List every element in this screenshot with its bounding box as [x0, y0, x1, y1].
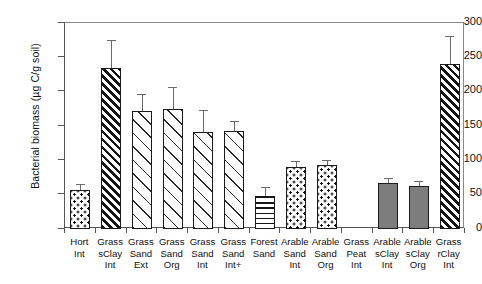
- bar-hort-int: [70, 190, 90, 229]
- x-axis-tick: [64, 228, 65, 233]
- x-axis-label-line: Hort: [62, 236, 97, 248]
- x-axis-label-line: Int: [339, 259, 374, 271]
- x-axis-category-grass-sand-int-: GrassSandInt+: [216, 236, 251, 271]
- error-bar-cap: [445, 36, 454, 37]
- x-axis-label-line: Sand: [308, 248, 343, 260]
- x-axis-label-line: Int: [93, 259, 128, 271]
- bar-arable-sand-int: [286, 167, 306, 229]
- x-axis-category-grass-sand-int: GrassSandInt: [185, 236, 220, 271]
- bacterial-biomass-bar-chart: Bacterial biomass (µg C/g soil) 30025020…: [0, 0, 482, 284]
- x-axis-label-line: Sand: [185, 248, 220, 260]
- y-axis-title: Bacterial biomass (µg C/g soil): [29, 6, 41, 226]
- x-axis-label-line: Int: [431, 259, 466, 271]
- x-axis-tick: [279, 228, 280, 233]
- error-bar-cap: [414, 181, 423, 182]
- error-bar-cap: [107, 40, 116, 41]
- x-axis-label-line: Grass: [154, 236, 189, 248]
- x-axis-label-line: Grass: [124, 236, 159, 248]
- x-axis-label-line: Int: [62, 248, 97, 260]
- x-axis-label-line: Forest: [247, 236, 282, 248]
- bar-arable-sclay-int: [378, 183, 398, 229]
- x-axis-tick: [433, 228, 434, 233]
- error-bar-cap: [76, 184, 85, 185]
- x-axis-tick: [310, 228, 311, 233]
- x-axis-label-line: Sand: [277, 248, 312, 260]
- x-axis-label-line: Grass: [185, 236, 220, 248]
- x-axis-tick: [218, 228, 219, 233]
- x-axis-label-line: sClay: [400, 248, 435, 260]
- x-axis-label-line: Grass: [431, 236, 466, 248]
- x-axis-tick: [464, 228, 465, 233]
- x-axis-category-forest-sand: ForestSand: [247, 236, 282, 259]
- x-axis-label-line: Grass: [339, 236, 374, 248]
- x-axis-category-hort-int: HortInt: [62, 236, 97, 259]
- error-bar-cap: [291, 161, 300, 162]
- x-axis-label-line: Sand: [154, 248, 189, 260]
- bar-grass-sclay-int: [101, 68, 121, 229]
- x-axis-label-line: Int: [370, 259, 405, 271]
- x-axis-tick: [187, 228, 188, 233]
- error-bar-line: [203, 110, 204, 132]
- error-bar-cap: [384, 178, 393, 179]
- bar-arable-sclay-org: [409, 186, 429, 229]
- x-axis-category-grass-sand-org: GrassSandOrg: [154, 236, 189, 271]
- x-axis-tick: [95, 228, 96, 233]
- x-axis-label-line: Org: [154, 259, 189, 271]
- error-bar-line: [111, 40, 112, 68]
- error-bar-cap: [322, 160, 331, 161]
- bar-grass-sand-org: [163, 109, 183, 229]
- x-axis-label-line: Int: [277, 259, 312, 271]
- x-axis-label-line: Sand: [247, 248, 282, 260]
- x-axis-category-grass-peat-int: GrassPeatInt: [339, 236, 374, 271]
- error-bar-line: [173, 87, 174, 109]
- x-axis-label-line: Arable: [277, 236, 312, 248]
- x-axis-label-line: sClay: [93, 248, 128, 260]
- bar-grass-sand-ext: [132, 111, 152, 229]
- bar-arable-sand-org: [317, 165, 337, 229]
- x-axis-label-line: Int: [185, 259, 220, 271]
- x-axis-label-line: rClay: [431, 248, 466, 260]
- x-axis-label-line: Sand: [216, 248, 251, 260]
- x-axis-tick: [341, 228, 342, 233]
- x-axis-category-arable-sclay-int: ArablesClayInt: [370, 236, 405, 271]
- bar-grass-rclay-int: [440, 64, 460, 229]
- bar-grass-sand-int-: [224, 131, 244, 229]
- x-axis-label-line: Org: [308, 259, 343, 271]
- x-axis-category-grass-sclay-int: GrasssClayInt: [93, 236, 128, 271]
- x-axis-category-arable-sclay-org: ArablesClayOrg: [400, 236, 435, 271]
- error-bar-line: [234, 121, 235, 131]
- x-axis-label-line: Sand: [124, 248, 159, 260]
- error-bar-line: [265, 187, 266, 196]
- x-axis-label-line: Int+: [216, 259, 251, 271]
- x-axis-label-line: sClay: [370, 248, 405, 260]
- x-axis-tick: [372, 228, 373, 233]
- x-axis-label-line: Arable: [370, 236, 405, 248]
- bar-forest-sand: [255, 196, 275, 229]
- x-axis-category-grass-sand-ext: GrassSandExt: [124, 236, 159, 271]
- error-bar-cap: [168, 87, 177, 88]
- plot-area: [64, 22, 464, 228]
- x-axis-tick: [156, 228, 157, 233]
- error-bar-cap: [261, 187, 270, 188]
- x-axis-label-line: Grass: [216, 236, 251, 248]
- x-axis-tick: [126, 228, 127, 233]
- x-axis-label-line: Arable: [308, 236, 343, 248]
- error-bar-line: [450, 36, 451, 64]
- x-axis-category-arable-sand-int: ArableSandInt: [277, 236, 312, 271]
- x-axis-label-line: Peat: [339, 248, 374, 260]
- x-axis-tick: [249, 228, 250, 233]
- x-axis-category-arable-sand-org: ArableSandOrg: [308, 236, 343, 271]
- x-axis-label-line: Arable: [400, 236, 435, 248]
- x-axis-label-line: Org: [400, 259, 435, 271]
- error-bar-cap: [230, 121, 239, 122]
- x-axis-tick: [402, 228, 403, 233]
- x-axis-category-grass-rclay-int: GrassrClayInt: [431, 236, 466, 271]
- x-axis-label-line: Grass: [93, 236, 128, 248]
- error-bar-cap: [199, 110, 208, 111]
- x-axis-label-line: Ext: [124, 259, 159, 271]
- bar-grass-sand-int: [193, 132, 213, 229]
- error-bar-cap: [137, 94, 146, 95]
- error-bar-line: [142, 94, 143, 111]
